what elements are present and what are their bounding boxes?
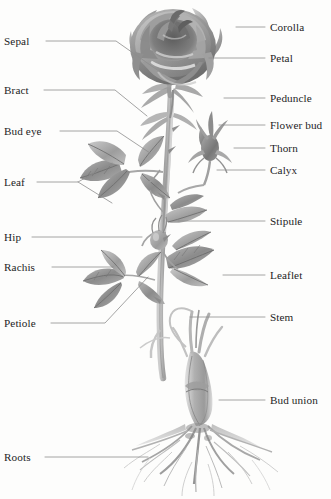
label-leaf: Leaf (4, 177, 25, 188)
rose-anatomy-diagram: SepalBractBud eyeLeafHipRachisPetioleRoo… (0, 0, 331, 499)
label-stem: Stem (270, 312, 293, 323)
leader-leaf (37, 163, 112, 203)
leader-petiole (51, 277, 148, 323)
leader-sepal (46, 41, 163, 74)
label-corolla: Corolla (270, 22, 304, 33)
label-roots: Roots (4, 452, 31, 463)
label-bud-eye: Bud eye (4, 126, 42, 137)
label-calyx: Calyx (270, 165, 297, 176)
label-thorn: Thorn (270, 143, 298, 154)
label-peduncle: Peduncle (270, 93, 312, 104)
label-rachis: Rachis (4, 262, 35, 273)
leader-lines (0, 0, 331, 499)
label-bract: Bract (4, 85, 29, 96)
label-bud-union: Bud union (270, 395, 318, 406)
leader-bud-eye (60, 131, 150, 153)
label-flower-bud: Flower bud (270, 120, 322, 131)
label-leaflet: Leaflet (270, 270, 302, 281)
label-hip: Hip (4, 232, 21, 243)
label-petal: Petal (270, 53, 293, 64)
leader-bract (44, 90, 147, 116)
label-sepal: Sepal (4, 36, 29, 47)
label-stipule: Stipule (270, 216, 302, 227)
label-petiole: Petiole (4, 318, 36, 329)
